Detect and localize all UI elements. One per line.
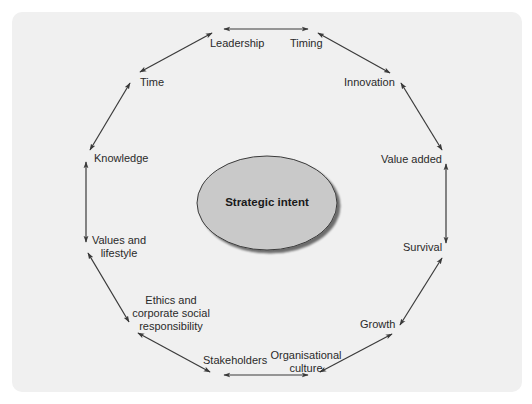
node-organisational-culture-line2: culture [268, 362, 344, 375]
node-innovation: Innovation [344, 76, 395, 89]
node-timing: Timing [290, 37, 323, 50]
arrow-ethics-values [88, 253, 129, 322]
arrow-stakeholders-ethics [138, 333, 210, 372]
node-survival: Survival [403, 241, 442, 254]
arrow-survival-growth [400, 258, 442, 325]
node-knowledge: Knowledge [94, 152, 148, 165]
arrow-time-leadership [140, 33, 212, 72]
node-ethics-csr: Ethics and corporate social responsibili… [128, 294, 214, 333]
node-leadership: Leadership [210, 37, 264, 50]
node-organisational-culture-line1: Organisational [268, 349, 344, 362]
node-organisational-culture: Organisational culture [268, 349, 344, 375]
node-values-line2: lifestyle [90, 247, 148, 260]
node-values-lifestyle: Values and lifestyle [90, 234, 148, 260]
node-time: Time [140, 76, 164, 89]
node-stakeholders: Stakeholders [203, 354, 267, 367]
node-values-line1: Values and [90, 234, 148, 247]
arrow-timing-innovation [318, 33, 390, 73]
strategic-intent-label: Strategic intent [197, 196, 337, 208]
node-ethics-line1: Ethics and [128, 294, 214, 307]
arrow-knowledge-time [90, 83, 130, 150]
node-growth: Growth [360, 318, 395, 331]
arrow-innovation-value-added [401, 83, 442, 150]
node-value-added: Value added [381, 153, 442, 166]
node-ethics-line3: responsibility [128, 320, 214, 333]
node-ethics-line2: corporate social [128, 307, 214, 320]
